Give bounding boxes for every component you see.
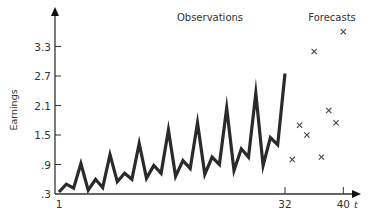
- earnings-chart: .3.91.52.12.73.313240 Observations Forec…: [0, 0, 370, 219]
- y-axis-arrow-icon: [51, 7, 59, 16]
- forecast-markers: [290, 29, 346, 162]
- y-tick-label: 1.5: [34, 129, 51, 141]
- observations-polyline: [59, 74, 285, 193]
- observations-label: Observations: [177, 12, 243, 23]
- forecast-x-marker-icon: [304, 132, 309, 137]
- forecast-x-marker-icon: [312, 49, 317, 54]
- x-axis-label: t: [354, 199, 359, 210]
- observations-line: [59, 74, 285, 193]
- forecast-x-marker-icon: [341, 29, 346, 34]
- x-tick-label: 32: [278, 198, 291, 210]
- forecast-x-marker-icon: [333, 120, 338, 125]
- y-tick-label: 3.3: [34, 41, 51, 53]
- y-tick-label: .3: [41, 188, 51, 200]
- x-tick-label: 1: [56, 198, 63, 210]
- forecast-x-marker-icon: [297, 123, 302, 128]
- tick-marks: .3.91.52.12.73.313240: [34, 41, 350, 211]
- y-axis-label: Earnings: [8, 89, 19, 130]
- y-tick-label: 2.1: [34, 100, 51, 112]
- forecasts-label: Forecasts: [308, 12, 356, 23]
- x-axis-arrow-icon: [352, 190, 361, 198]
- y-tick-label: .9: [41, 159, 51, 171]
- forecast-x-marker-icon: [290, 157, 295, 162]
- x-tick-label: 40: [337, 198, 350, 210]
- y-tick-label: 2.7: [34, 70, 51, 82]
- forecast-x-marker-icon: [326, 108, 331, 113]
- forecast-x-marker-icon: [319, 155, 324, 160]
